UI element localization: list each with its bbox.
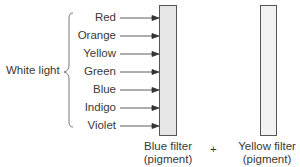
blue-filter-caption: Blue filter (pigment) — [138, 140, 198, 166]
blue-filter-label: Blue filter — [138, 140, 198, 153]
yellow-filter — [261, 6, 277, 136]
white-light-label: White light — [6, 64, 60, 76]
blue-filter-sublabel: (pigment) — [138, 153, 198, 166]
yellow-filter-caption: Yellow filter (pigment) — [234, 140, 300, 166]
color-label-green: Green — [56, 65, 116, 77]
color-label-yellow: Yellow — [56, 47, 116, 59]
blue-filter — [160, 6, 177, 136]
color-label-blue: Blue — [56, 83, 116, 95]
color-label-indigo: Indigo — [56, 101, 116, 113]
plus-operator: + — [210, 143, 217, 155]
yellow-filter-label: Yellow filter — [234, 140, 300, 153]
color-label-violet: Violet — [56, 119, 116, 131]
color-label-orange: Orange — [56, 29, 116, 41]
yellow-filter-sublabel: (pigment) — [234, 153, 300, 166]
color-label-red: Red — [56, 11, 116, 23]
